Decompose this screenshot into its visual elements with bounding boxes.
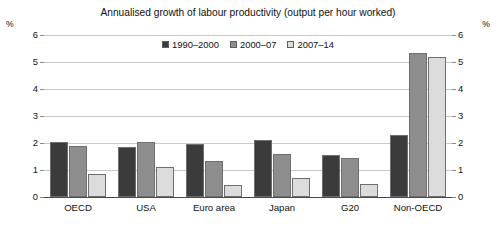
gridline-0	[44, 197, 452, 198]
tick-mark-right-2	[452, 143, 456, 144]
legend-item[interactable]: 1990–2000	[162, 39, 219, 50]
bar	[69, 146, 87, 197]
tick-mark-right-3	[452, 116, 456, 117]
y-axis-unit-right: %	[482, 19, 490, 29]
x-axis-label-euro-area: Euro area	[180, 202, 248, 213]
legend-swatch-icon	[287, 41, 294, 48]
bar	[205, 161, 223, 197]
legend-label: 1990–2000	[172, 39, 219, 50]
y-tick-label-left-0: 0	[33, 192, 38, 201]
bar-group-euro-area	[180, 35, 248, 197]
bar	[254, 140, 272, 197]
x-axis-label-japan: Japan	[248, 202, 316, 213]
legend-label: 2000–07	[240, 39, 277, 50]
y-tick-label-right-1: 1	[458, 165, 463, 174]
tick-mark-right-5	[452, 62, 456, 63]
bar	[360, 184, 378, 198]
bar-group-oecd	[44, 35, 112, 197]
x-axis-category-labels: OECDUSAEuro areaJapanG20Non-OECD	[44, 202, 452, 213]
y-tick-label-left-4: 4	[33, 84, 38, 93]
bar	[390, 135, 408, 197]
plot-area: 00112233445566	[44, 35, 452, 197]
tick-mark-right-4	[452, 89, 456, 90]
bar	[428, 57, 446, 197]
x-axis-label-g20: G20	[316, 202, 384, 213]
y-tick-label-left-3: 3	[33, 111, 38, 120]
legend-swatch-icon	[162, 41, 169, 48]
y-tick-label-right-3: 3	[458, 111, 463, 120]
bar	[292, 178, 310, 197]
bar	[273, 154, 291, 197]
y-tick-label-left-2: 2	[33, 138, 38, 147]
y-tick-label-right-4: 4	[458, 84, 463, 93]
tick-mark-left-0	[40, 197, 44, 198]
y-tick-label-right-2: 2	[458, 138, 463, 147]
bar	[186, 144, 204, 197]
y-tick-label-right-5: 5	[458, 57, 463, 66]
bar	[322, 155, 340, 197]
chart-legend: 1990–20002000–072007–14	[0, 39, 496, 50]
y-tick-label-right-6: 6	[458, 30, 463, 39]
bar-group-japan	[248, 35, 316, 197]
bar	[224, 185, 242, 197]
bar	[341, 158, 359, 197]
bar-groups	[44, 35, 452, 197]
tick-mark-right-1	[452, 170, 456, 171]
legend-item[interactable]: 2007–14	[287, 39, 334, 50]
bar	[409, 53, 427, 197]
bar	[137, 142, 155, 197]
tick-mark-right-6	[452, 35, 456, 36]
bar-group-g20	[316, 35, 384, 197]
y-tick-label-left-5: 5	[33, 57, 38, 66]
bar	[118, 147, 136, 197]
x-axis-label-usa: USA	[112, 202, 180, 213]
legend-item[interactable]: 2000–07	[230, 39, 277, 50]
y-axis-unit-left: %	[6, 19, 14, 29]
tick-mark-right-0	[452, 197, 456, 198]
bar	[88, 174, 106, 197]
x-axis-label-non-oecd: Non-OECD	[384, 202, 452, 213]
legend-label: 2007–14	[297, 39, 334, 50]
bar	[156, 167, 174, 197]
y-tick-label-left-1: 1	[33, 165, 38, 174]
y-tick-label-right-0: 0	[458, 192, 463, 201]
legend-swatch-icon	[230, 41, 237, 48]
x-axis-label-oecd: OECD	[44, 202, 112, 213]
y-tick-label-left-6: 6	[33, 30, 38, 39]
chart-title: Annualised growth of labour productivity…	[0, 6, 496, 19]
bar-group-non-oecd	[384, 35, 452, 197]
bar	[50, 142, 68, 197]
chart-container: Annualised growth of labour productivity…	[0, 0, 496, 236]
bar-group-usa	[112, 35, 180, 197]
